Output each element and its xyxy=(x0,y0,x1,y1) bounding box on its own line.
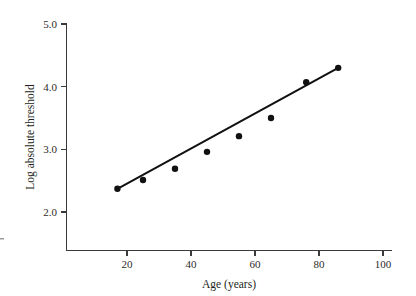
x-axis-ticks xyxy=(127,251,383,257)
y-tick-label-3: 3.0 xyxy=(43,143,57,155)
data-point xyxy=(335,65,341,71)
y-axis-title: Log absolute threshold xyxy=(24,84,37,190)
data-point xyxy=(114,186,120,192)
x-tick-label-80: 80 xyxy=(314,258,326,270)
figure-container: 5.0 4.0 3.0 2.0 20 40 60 80 100 Age (yea… xyxy=(0,0,416,296)
axis-lines xyxy=(67,24,393,251)
x-axis-tick-labels: 20 40 60 80 100 xyxy=(122,258,392,270)
x-tick-label-40: 40 xyxy=(186,258,198,270)
x-axis-title: Age (years) xyxy=(202,278,256,291)
data-point xyxy=(236,133,242,139)
regression-line xyxy=(117,68,338,189)
data-point xyxy=(140,177,146,183)
scatter-plot: 5.0 4.0 3.0 2.0 20 40 60 80 100 Age (yea… xyxy=(0,0,416,296)
data-point xyxy=(204,149,210,155)
data-point xyxy=(303,79,309,85)
page-edge-mark xyxy=(0,238,4,240)
data-point xyxy=(172,166,178,172)
y-tick-label-2: 2.0 xyxy=(43,206,57,218)
x-tick-label-60: 60 xyxy=(250,258,262,270)
x-tick-label-20: 20 xyxy=(122,258,134,270)
x-tick-label-100: 100 xyxy=(375,258,392,270)
data-point xyxy=(268,115,274,121)
y-axis-tick-labels: 5.0 4.0 3.0 2.0 xyxy=(43,18,57,218)
y-tick-label-5: 5.0 xyxy=(43,18,57,30)
y-axis-ticks xyxy=(61,24,67,212)
y-tick-label-4: 4.0 xyxy=(43,81,57,93)
